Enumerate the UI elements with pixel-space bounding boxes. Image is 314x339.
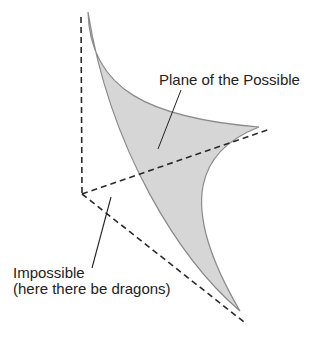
vertical-axis xyxy=(81,17,82,194)
plane-of-possible-shape xyxy=(88,12,259,311)
possible-label: Plane of the Possible xyxy=(159,72,300,88)
impossible-sublabel: (here there be dragons) xyxy=(13,281,171,297)
impossible-label: Impossible xyxy=(13,265,85,281)
impossible-leader-line xyxy=(92,197,111,268)
